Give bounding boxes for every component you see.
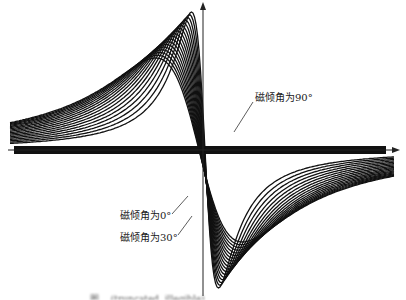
label-inclination-90: 磁倾角为90°: [255, 89, 313, 104]
leader-line-90: [234, 102, 253, 132]
figure-caption: 图… (truncated, illegible): [90, 292, 320, 300]
leader-line-0: [172, 196, 188, 214]
curve-family-chart: [0, 0, 406, 300]
x-axis-arrow-icon: [392, 147, 400, 153]
y-axis-arrow-icon: [200, 2, 206, 10]
label-inclination-0: 磁倾角为0°: [120, 207, 171, 222]
leader-line-30: [178, 216, 192, 235]
label-inclination-30: 磁倾角为30°: [120, 229, 178, 244]
